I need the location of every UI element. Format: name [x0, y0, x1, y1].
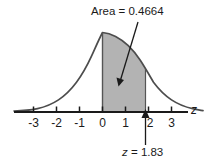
normal-distribution-figure: Area = 0.4664 z = 1.83 -3 -2 -1 0 1 2 3 … — [0, 0, 208, 166]
plot-area — [0, 0, 208, 166]
shaded-area-region — [103, 33, 146, 113]
tick-label-three: 3 — [168, 117, 175, 129]
x-axis-label: z — [191, 104, 197, 116]
area-annotation-label: Area = 0.4664 — [91, 6, 164, 18]
tick-label-one: 1 — [122, 117, 129, 129]
tick-label-neg2: -2 — [51, 117, 62, 129]
tick-label-two: 2 — [147, 117, 154, 129]
z-value-annotation-label: z = 1.83 — [122, 147, 163, 159]
z-equals-sign: = — [131, 146, 138, 158]
z-value-number: 1.83 — [141, 146, 163, 158]
tick-label-neg3: -3 — [28, 117, 39, 129]
tick-label-neg1: -1 — [74, 117, 85, 129]
z-symbol: z — [122, 146, 128, 158]
tick-label-zero: 0 — [99, 117, 106, 129]
